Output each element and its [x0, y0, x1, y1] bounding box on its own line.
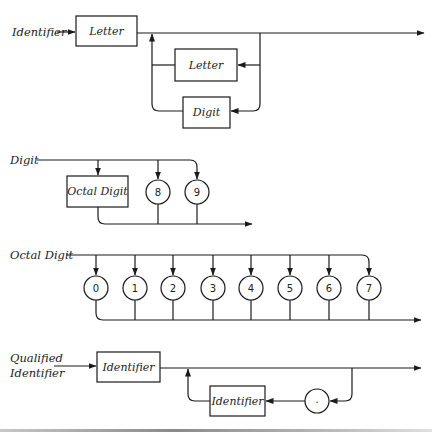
letter-box-label: Letter — [88, 25, 124, 38]
loop-to-dot-arrow — [330, 368, 352, 401]
qualified-identifier-diagram: Qualified Identifier Identifier . Identi… — [9, 351, 421, 416]
loop-digit-label: Digit — [192, 106, 221, 119]
qualified-title-line1: Qualified — [10, 351, 63, 365]
loop-letter-label: Letter — [188, 59, 224, 72]
qualified-return-up-arrow — [188, 369, 210, 401]
octal-3-label: 3 — [210, 283, 216, 294]
digit-title: Digit — [9, 153, 39, 167]
octal-7-label: 7 — [366, 283, 372, 294]
octal-1-label: 1 — [132, 283, 138, 294]
octal-exit-arrow — [96, 300, 421, 320]
identifier-diagram: Identifier Letter Letter Digit — [11, 16, 424, 128]
octal-6-label: 6 — [326, 283, 332, 294]
octal-4-label: 4 — [248, 283, 254, 294]
octal-5-label: 5 — [287, 283, 293, 294]
digit-8-label: 8 — [155, 187, 161, 198]
octal-0-label: 0 — [93, 283, 99, 294]
syntax-diagrams: Identifier Letter Letter Digit Digit Oct… — [0, 0, 432, 432]
octal-digit-box-label: Octal Digit — [67, 185, 128, 198]
loop-identifier-label: Identifier — [210, 395, 264, 408]
qualified-identifier-box-label: Identifier — [101, 361, 155, 374]
octal-entry-line — [66, 255, 369, 275]
octal-digit-diagram: Octal Digit 0 1 2 3 4 5 6 7 — [10, 248, 421, 320]
octal-2-label: 2 — [170, 283, 176, 294]
qualified-title-line2: Identifier — [9, 366, 66, 380]
octal-digit-title: Octal Digit — [10, 248, 74, 262]
digit-diagram: Digit Octal Digit 8 9 — [9, 153, 252, 224]
digit-exit-arrow — [98, 207, 252, 224]
dot-label: . — [315, 394, 318, 405]
digit-9-label: 9 — [194, 187, 200, 198]
